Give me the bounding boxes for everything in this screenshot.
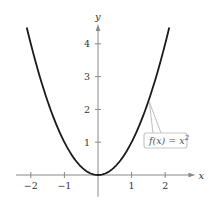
axes: x y	[16, 11, 204, 197]
x-tick-label: −1	[57, 180, 71, 191]
annotation-leader	[149, 102, 161, 133]
y-axis-arrow-icon	[96, 24, 101, 31]
x-tick-label: −2	[24, 180, 38, 191]
x-tick-label: 2	[162, 180, 168, 191]
y-tick-label: 4	[84, 38, 90, 49]
y-axis-label: y	[94, 11, 101, 22]
function-label-superscript: 2	[184, 134, 190, 142]
chart: x y −2−112 1234 f(x) = x2	[0, 0, 218, 205]
function-label-main: f(x) = x	[148, 135, 185, 146]
x-axis-label: x	[198, 170, 204, 181]
function-annotation: f(x) = x2	[144, 102, 190, 148]
x-tick-label: 1	[129, 180, 135, 191]
y-tick-label: 1	[84, 137, 90, 148]
x-axis-arrow-icon	[188, 173, 195, 178]
y-tick-label: 2	[84, 104, 90, 115]
y-tick-label: 3	[84, 71, 90, 82]
function-label: f(x) = x2	[148, 134, 190, 146]
